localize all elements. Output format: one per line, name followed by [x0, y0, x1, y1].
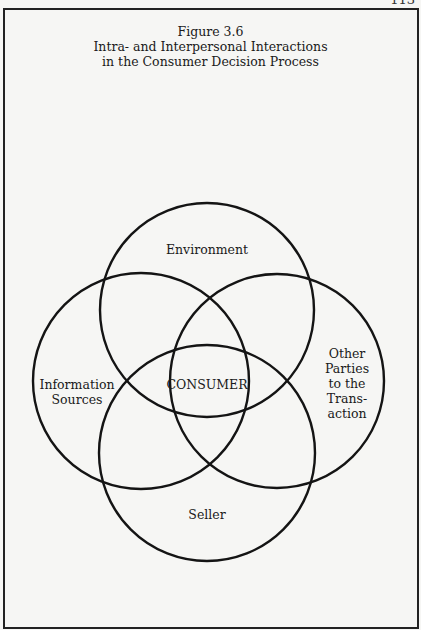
other-parties-label-line-1: Other: [315, 346, 379, 361]
other-parties-label-line-3: to the: [315, 376, 379, 391]
other-parties-label-line-5: action: [315, 406, 379, 421]
other-parties-label: Other Parties to the Trans- action: [315, 346, 379, 421]
consumer-label: CONSUMER: [157, 377, 257, 392]
information-sources-label: Information Sources: [30, 377, 124, 407]
venn-diagram: [0, 0, 421, 630]
other-parties-label-line-2: Parties: [315, 361, 379, 376]
other-parties-label-line-4: Trans-: [315, 391, 379, 406]
environment-label: Environment: [147, 242, 267, 257]
information-sources-label-line-2: Sources: [30, 392, 124, 407]
information-sources-label-line-1: Information: [30, 377, 124, 392]
seller-label: Seller: [157, 507, 257, 522]
